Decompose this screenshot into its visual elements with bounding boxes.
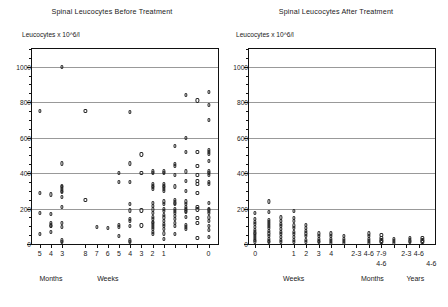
data-point bbox=[129, 219, 132, 223]
data-point bbox=[162, 189, 165, 193]
x-axis-tick bbox=[331, 244, 332, 248]
grid-line bbox=[249, 173, 435, 174]
y-axis-tick bbox=[29, 129, 32, 130]
y-axis-tick bbox=[246, 235, 249, 236]
data-point bbox=[207, 228, 210, 232]
data-point bbox=[207, 89, 210, 93]
data-point bbox=[421, 240, 424, 244]
x-axis-tick-label: 5 bbox=[38, 250, 42, 257]
x-axis-tick bbox=[294, 244, 295, 248]
data-point bbox=[173, 232, 176, 236]
x-axis-tick bbox=[255, 244, 256, 248]
data-point bbox=[185, 93, 188, 97]
y-axis-label-before: Leucocytes x 10^6/l bbox=[22, 31, 80, 38]
y-axis-tick-label: 200 bbox=[222, 205, 248, 212]
data-point bbox=[129, 161, 132, 165]
data-point bbox=[173, 224, 176, 228]
y-axis-tick bbox=[246, 191, 249, 192]
y-axis-tick bbox=[246, 200, 249, 201]
data-point bbox=[196, 236, 199, 240]
x-axis-tick bbox=[97, 244, 98, 248]
data-point bbox=[267, 240, 270, 244]
data-point bbox=[49, 212, 52, 216]
x-axis-tick-label: 3 bbox=[139, 250, 143, 257]
y-axis-tick-label: 800 bbox=[222, 99, 248, 106]
y-axis-tick bbox=[29, 49, 32, 50]
x-axis-tick bbox=[356, 244, 357, 248]
data-point bbox=[196, 173, 199, 177]
y-axis-tick bbox=[29, 111, 32, 112]
x-axis-group-label: Years bbox=[406, 275, 424, 282]
x-axis-tick-label: 2 bbox=[304, 250, 308, 257]
data-point bbox=[173, 184, 176, 188]
x-axis-tick-label: 6 bbox=[106, 250, 110, 257]
data-point bbox=[196, 190, 199, 194]
data-point bbox=[392, 240, 395, 244]
grid-line bbox=[32, 173, 218, 174]
data-point bbox=[129, 110, 132, 114]
grid-line bbox=[32, 138, 218, 139]
plot-area-before: 02004006008001000543876543210MonthsWeeks bbox=[31, 48, 219, 245]
data-point bbox=[151, 171, 154, 175]
x-axis-tick-label: 4-6 bbox=[364, 250, 374, 257]
x-axis-tick bbox=[153, 244, 154, 248]
y-axis-tick bbox=[246, 49, 249, 50]
data-point bbox=[267, 210, 270, 214]
data-point bbox=[162, 171, 165, 175]
y-axis-tick bbox=[29, 226, 32, 227]
y-axis-tick bbox=[246, 84, 249, 85]
x-axis-tick-label: 5 bbox=[117, 250, 121, 257]
data-point bbox=[367, 240, 370, 244]
data-point bbox=[61, 161, 64, 165]
x-axis-tick bbox=[186, 244, 187, 248]
y-axis-tick bbox=[29, 164, 32, 165]
x-axis-tick-label: 2-3 bbox=[401, 250, 411, 257]
x-axis-tick bbox=[197, 244, 198, 248]
x-axis-tick bbox=[119, 244, 120, 248]
data-point bbox=[185, 150, 188, 154]
data-point bbox=[380, 240, 383, 244]
chart-title-before: Spinal Leucocytes Before Treatment bbox=[0, 7, 224, 16]
x-axis-tick bbox=[141, 244, 142, 248]
data-point bbox=[140, 152, 143, 156]
y-axis-tick-label: 800 bbox=[5, 99, 31, 106]
x-axis-tick-label: 1 bbox=[292, 250, 296, 257]
data-point bbox=[207, 159, 210, 163]
figure-root: Spinal Leucocytes Before Treatment Leuco… bbox=[0, 0, 448, 307]
y-axis-tick-label: 200 bbox=[5, 205, 31, 212]
data-point bbox=[196, 164, 199, 168]
x-axis-tick bbox=[40, 244, 41, 248]
y-axis-tick bbox=[29, 182, 32, 183]
data-point bbox=[49, 224, 52, 228]
x-axis-tick-label: 1 bbox=[162, 250, 166, 257]
y-axis-tick bbox=[246, 164, 249, 165]
x-axis-tick bbox=[306, 244, 307, 248]
data-point bbox=[173, 144, 176, 148]
y-axis-tick bbox=[29, 84, 32, 85]
y-axis-tick bbox=[29, 200, 32, 201]
x-axis-group-label: Months bbox=[39, 275, 62, 282]
chart-title-after: Spinal Leucocytes After Treatment bbox=[224, 7, 448, 16]
y-axis-tick bbox=[246, 93, 249, 94]
x-axis-tick bbox=[406, 244, 407, 248]
y-axis-tick-label: 600 bbox=[222, 134, 248, 141]
data-point bbox=[207, 219, 210, 223]
x-axis-tick bbox=[344, 244, 345, 248]
x-axis-tick bbox=[381, 244, 382, 248]
y-axis-tick bbox=[29, 155, 32, 156]
x-axis-group-label: Weeks bbox=[97, 275, 118, 282]
y-axis-tick bbox=[246, 217, 249, 218]
data-point bbox=[129, 208, 132, 212]
data-point bbox=[185, 214, 188, 218]
x-axis-tick-label: 3 bbox=[317, 250, 321, 257]
x-axis-tick-label: 0 bbox=[207, 250, 211, 257]
x-axis-tick bbox=[62, 244, 63, 248]
data-point bbox=[305, 240, 308, 244]
x-axis-tick bbox=[51, 244, 52, 248]
data-point bbox=[342, 240, 345, 244]
y-axis-tick bbox=[246, 129, 249, 130]
data-point bbox=[117, 171, 120, 175]
y-axis-tick bbox=[29, 217, 32, 218]
data-point bbox=[207, 182, 210, 186]
x-axis-tick bbox=[130, 244, 131, 248]
